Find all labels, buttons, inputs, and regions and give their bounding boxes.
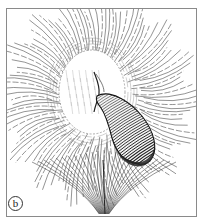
figure-label-text: b [13, 198, 19, 209]
anatomical-illustration: b [0, 0, 201, 221]
illustration-canvas [0, 0, 201, 221]
figure-label: b [8, 196, 23, 211]
